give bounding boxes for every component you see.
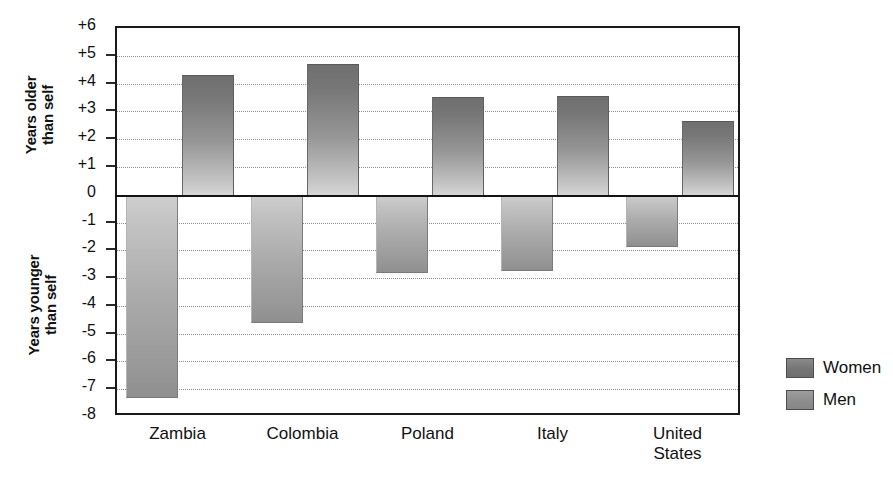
y-tick-label: 0 [36,184,96,200]
gridline [117,56,738,57]
legend-label-men: Men [823,390,856,410]
y-tick-label: +1 [36,156,96,172]
plot-inner [117,28,738,413]
legend: Women Men [786,352,891,416]
bar-men-zambia [182,75,234,194]
y-tick-label: -4 [36,295,96,311]
y-tick-label: -8 [36,406,96,422]
legend-swatch-women-icon [786,358,814,378]
legend-item-men[interactable]: Men [786,384,891,416]
gridline [117,278,738,279]
x-category-label: Poland [365,424,490,444]
y-tick-label: +2 [36,128,96,144]
gridline [117,306,738,307]
bar-women-colombia [251,195,303,323]
x-category-label: United States [615,424,740,464]
y-tick-label: -3 [36,267,96,283]
bar-men-colombia [307,64,359,195]
y-tick-label: +5 [36,45,96,61]
y-tick-label: +3 [36,100,96,116]
legend-swatch-men-icon [786,390,814,410]
bar-men-poland [432,97,484,194]
plot-area [115,26,740,415]
x-category-label: Italy [490,424,615,444]
gridline [117,389,738,390]
bar-women-italy [501,195,553,271]
chart-canvas: Years older than self Years younger than… [0,0,893,492]
x-category-label: Colombia [240,424,365,444]
gridline [117,361,738,362]
zero-baseline [115,195,740,197]
y-tick-label: -5 [36,323,96,339]
legend-label-women: Women [823,358,881,378]
y-tick-label: -1 [36,212,96,228]
bar-women-united-states [626,195,678,248]
y-tick-label: +4 [36,73,96,89]
bar-women-poland [376,195,428,273]
x-category-label: Zambia [115,424,240,444]
gridline [117,334,738,335]
y-tick-label: -6 [36,350,96,366]
bar-women-zambia [126,195,178,398]
y-tick-label: +6 [36,17,96,33]
bar-men-united-states [682,121,734,195]
legend-item-women[interactable]: Women [786,352,891,384]
gridline [117,250,738,251]
y-tick-label: -7 [36,378,96,394]
bar-men-italy [557,96,609,195]
y-tick-label: -2 [36,239,96,255]
